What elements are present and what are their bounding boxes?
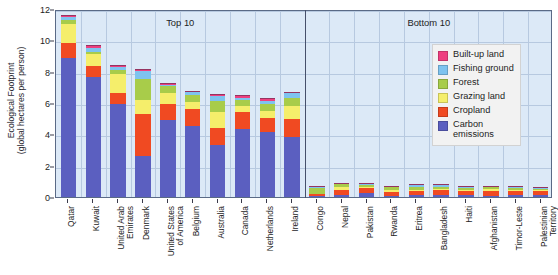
legend-item[interactable]: Built-up land xyxy=(438,49,514,61)
bar-segment xyxy=(210,112,225,128)
x-tick-label: Qatar xyxy=(67,206,76,227)
bar-segment xyxy=(260,132,275,197)
x-tick-label: Denmark xyxy=(142,206,151,240)
bar-segment xyxy=(185,95,200,102)
bar-segment xyxy=(284,119,299,137)
bar-segment xyxy=(235,112,250,129)
stacked-bar xyxy=(235,95,250,197)
stacked-bar xyxy=(309,186,324,197)
bar-segment xyxy=(284,98,299,107)
x-tick-mark xyxy=(415,199,416,203)
panel-title-top10: Top 10 xyxy=(166,17,194,28)
y-tick-mark xyxy=(50,135,54,136)
legend-swatch-icon xyxy=(438,121,448,131)
legend-swatch-icon xyxy=(438,51,448,61)
x-tick-label: Eritrea xyxy=(415,206,424,231)
y-tick-mark xyxy=(50,104,54,105)
stacked-bar xyxy=(210,94,225,197)
x-tick-mark xyxy=(192,199,193,203)
x-axis-labels: QatarKuwaitUnited ArabEmiratesDenmarkUni… xyxy=(55,199,552,275)
bar-segment xyxy=(160,93,175,103)
y-tick-mark xyxy=(50,198,54,199)
bar-segment xyxy=(384,196,399,197)
stacked-bar xyxy=(384,186,399,197)
legend-item[interactable]: Fishing ground xyxy=(438,63,514,75)
legend-item[interactable]: Forest xyxy=(438,77,514,89)
panel-title-bottom10: Bottom 10 xyxy=(407,17,450,28)
stacked-bar xyxy=(110,65,125,197)
bar-segment xyxy=(433,195,448,198)
bar-segment xyxy=(334,195,349,197)
bar-segment xyxy=(284,106,299,119)
bar-segment xyxy=(260,111,275,118)
x-tick-mark xyxy=(92,199,93,203)
bar-segment xyxy=(61,43,76,58)
legend-label: Carbon emissions xyxy=(453,119,494,140)
x-tick-label: Nepal xyxy=(341,206,350,228)
y-tick-mark xyxy=(50,41,54,42)
bar-segment xyxy=(86,77,101,197)
legend-item[interactable]: Cropland xyxy=(438,105,514,117)
legend-label: Cropland xyxy=(453,105,490,115)
bar-segment xyxy=(185,109,200,126)
bar-segment xyxy=(508,195,523,197)
x-tick-label: United Statesof America xyxy=(167,206,186,256)
y-axis-title: Ecological Footprint (global hectares pe… xyxy=(0,0,34,200)
x-tick-label: Timor-Leste xyxy=(515,206,524,250)
y-tick-label: 12 xyxy=(40,6,50,15)
stacked-bar xyxy=(86,45,101,197)
stacked-bar xyxy=(160,83,175,197)
bar-segment xyxy=(135,71,150,79)
bar-segment xyxy=(309,196,324,197)
legend-item[interactable]: Carbon emissions xyxy=(438,119,514,140)
bar-segment xyxy=(533,195,548,197)
x-tick-label: Canada xyxy=(241,206,250,235)
bar-segment xyxy=(135,79,150,99)
x-tick-label: Congo xyxy=(316,206,325,231)
bar-segment xyxy=(260,118,275,132)
x-tick-mark xyxy=(490,199,491,203)
bar-segment xyxy=(160,120,175,197)
bar-segment xyxy=(185,126,200,197)
legend-item[interactable]: Grazing land xyxy=(438,91,514,103)
x-tick-label: Bangladesh xyxy=(440,206,449,250)
legend-label: Grazing land xyxy=(453,91,505,101)
x-tick-label: Kuwait xyxy=(92,206,101,231)
stacked-bar xyxy=(409,184,424,197)
stacked-bar xyxy=(433,184,448,197)
bar-segment xyxy=(284,137,299,197)
x-tick-label: Ireland xyxy=(291,206,300,232)
stacked-bar xyxy=(458,186,473,197)
stacked-bar xyxy=(533,187,548,197)
stacked-bar xyxy=(284,92,299,197)
x-tick-mark xyxy=(390,199,391,203)
stacked-bar xyxy=(359,183,374,197)
y-axis-title-line2: (global hectares per person) xyxy=(17,46,27,153)
x-tick-mark xyxy=(167,199,168,203)
x-tick-mark xyxy=(341,199,342,203)
bar-segment xyxy=(110,93,125,104)
bar-segment xyxy=(210,145,225,197)
bar-segment xyxy=(359,193,374,197)
legend-swatch-icon xyxy=(438,79,448,89)
y-axis-labels: 024681012 xyxy=(34,0,54,210)
x-tick-mark xyxy=(440,199,441,203)
y-tick-label: 10 xyxy=(40,37,50,46)
bar-segment xyxy=(86,66,101,77)
x-tick-label: United ArabEmirates xyxy=(117,206,136,250)
x-tick-label: Australia xyxy=(217,206,226,239)
bar-segment xyxy=(160,104,175,120)
bar-segment xyxy=(409,195,424,197)
y-axis-title-line1: Ecological Footprint xyxy=(7,46,17,153)
legend-label: Fishing ground xyxy=(453,63,514,73)
x-tick-label: Belgium xyxy=(192,206,201,236)
x-tick-mark xyxy=(465,199,466,203)
x-tick-mark xyxy=(316,199,317,203)
y-tick-mark xyxy=(50,72,54,73)
x-tick-mark xyxy=(67,199,68,203)
y-tick-mark xyxy=(50,10,54,11)
x-tick-label: Pakistan xyxy=(366,206,375,238)
legend-label: Forest xyxy=(453,77,479,87)
stacked-bar xyxy=(185,91,200,198)
